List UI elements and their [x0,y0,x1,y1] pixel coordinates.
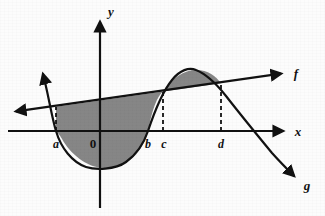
origin-label: 0 [90,136,97,151]
figure-container: x y 0 a b c d f g [0,0,325,216]
point-label-d: d [218,137,225,151]
point-label-c: c [161,137,167,151]
y-axis-label: y [106,4,114,19]
graph-canvas: x y 0 a b c d f g [0,0,325,216]
curve-label-g: g [303,178,311,193]
point-label-b: b [145,137,151,151]
curve-label-f: f [294,66,300,81]
point-label-a: a [53,137,59,151]
x-axis-label: x [294,124,302,139]
